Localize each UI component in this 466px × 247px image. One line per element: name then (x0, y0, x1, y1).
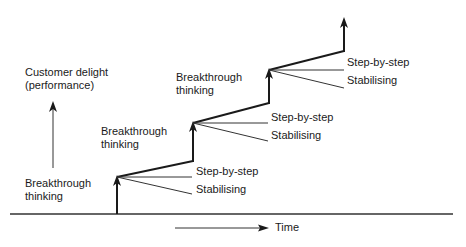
breakthrough-label-3: Breakthrough thinking (176, 71, 242, 97)
y-axis-label-line2: (performance) (25, 79, 108, 92)
step-line-thick-3 (269, 51, 344, 70)
breakthrough-label-1-line2: thinking (25, 190, 91, 203)
y-axis-label: Customer delight (performance) (25, 66, 108, 92)
breakthrough-label-1-line1: Breakthrough (25, 177, 91, 190)
stabilising-label-2: Stabilising (271, 129, 321, 142)
step-by-step-label-3: Step-by-step (347, 56, 409, 69)
staircase-diagram (0, 0, 466, 247)
breakthrough-label-2: Breakthrough thinking (101, 125, 167, 151)
breakthrough-label-2-line1: Breakthrough (101, 125, 167, 138)
breakthrough-label-3-line1: Breakthrough (176, 71, 242, 84)
step-line-thick-1 (117, 161, 193, 177)
step-line-thick-2 (193, 103, 269, 123)
breakthrough-label-2-line2: thinking (101, 138, 167, 151)
stabilising-line-3 (269, 70, 344, 88)
stabilising-label-1: Stabilising (196, 183, 246, 196)
y-axis-label-line1: Customer delight (25, 66, 108, 79)
breakthrough-label-3-line2: thinking (176, 84, 242, 97)
stabilising-line-2 (193, 123, 268, 141)
x-axis-label: Time (275, 221, 299, 234)
breakthrough-label-1: Breakthrough thinking (25, 177, 91, 203)
stabilising-label-3: Stabilising (347, 74, 397, 87)
step-by-step-label-1: Step-by-step (196, 165, 258, 178)
stabilising-line-1 (117, 177, 192, 194)
step-by-step-label-2: Step-by-step (271, 111, 333, 124)
